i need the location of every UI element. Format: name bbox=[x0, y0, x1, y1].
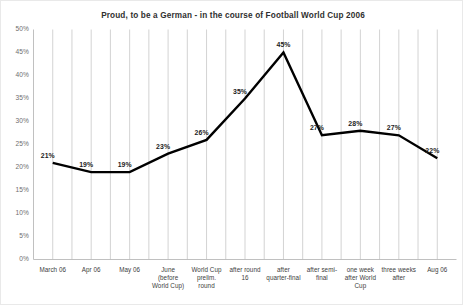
data-point-label: 21% bbox=[41, 152, 55, 159]
data-point-label: 35% bbox=[233, 88, 247, 95]
y-axis-tick-label: 0% bbox=[1, 255, 29, 262]
x-axis-tick-label: Aug 06 bbox=[415, 266, 459, 274]
x-axis-tick-label: three weeksafter bbox=[377, 266, 421, 283]
plot-area bbox=[1, 1, 464, 306]
data-point-label: 23% bbox=[156, 143, 170, 150]
x-axis-tick-label: June(beforeWorld Cup) bbox=[146, 266, 190, 291]
data-point-label: 27% bbox=[310, 124, 324, 131]
x-axis-tick-label: after semi-final bbox=[300, 266, 344, 283]
data-point-label: 28% bbox=[348, 120, 362, 127]
y-axis-tick-label: 40% bbox=[1, 71, 29, 78]
y-axis-tick-label: 35% bbox=[1, 94, 29, 101]
y-axis-tick-label: 20% bbox=[1, 163, 29, 170]
data-point-label: 22% bbox=[425, 147, 439, 154]
x-axis-tick-label: Apr 06 bbox=[69, 266, 113, 274]
data-point-label: 27% bbox=[387, 124, 401, 131]
data-point-label: 19% bbox=[118, 161, 132, 168]
x-axis-tick-label: May 06 bbox=[108, 266, 152, 274]
vertical-gridlines bbox=[53, 30, 438, 260]
y-axis-tick-label: 5% bbox=[1, 232, 29, 239]
y-axis-tick-label: 45% bbox=[1, 48, 29, 55]
y-axis-tick-label: 50% bbox=[1, 25, 29, 32]
x-axis-tick-label: one weekafter WorldCup bbox=[338, 266, 382, 291]
x-axis-tick-label: afterquarter-final bbox=[261, 266, 305, 283]
y-axis-tick-label: 10% bbox=[1, 209, 29, 216]
y-axis-tick-label: 30% bbox=[1, 117, 29, 124]
x-axis-tick-label: after round16 bbox=[223, 266, 267, 283]
y-axis-tick-label: 25% bbox=[1, 140, 29, 147]
x-axis-tick-label: March 06 bbox=[31, 266, 75, 274]
data-point-label: 19% bbox=[79, 161, 93, 168]
x-axis-tick-label: World Cupprelim.round bbox=[185, 266, 229, 291]
chart-container: Proud, to be a German - in the course of… bbox=[0, 0, 463, 305]
data-point-label: 45% bbox=[276, 41, 290, 48]
y-axis-tick-label: 15% bbox=[1, 186, 29, 193]
data-point-label: 26% bbox=[195, 129, 209, 136]
